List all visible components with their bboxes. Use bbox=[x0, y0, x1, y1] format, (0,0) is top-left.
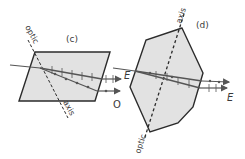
crystal-parallelogram bbox=[19, 52, 110, 101]
panel-c: (c) optic axis O bbox=[10, 24, 121, 118]
birefringence-diagram: (c) optic axis O (d) axis optic E E bbox=[0, 0, 245, 159]
panel-label-c: (c) bbox=[66, 34, 78, 44]
panel-d: (d) axis optic E E bbox=[100, 7, 234, 155]
exit-ray-label-d: E bbox=[227, 92, 234, 103]
optic-label-c: optic bbox=[23, 24, 40, 46]
optic-label-d: optic bbox=[133, 133, 148, 155]
ordinary-ray-label: O bbox=[113, 99, 121, 110]
entry-ray-label-d: E bbox=[124, 70, 131, 81]
axis-label-d: axis bbox=[174, 7, 188, 25]
panel-label-d: (d) bbox=[196, 20, 209, 30]
